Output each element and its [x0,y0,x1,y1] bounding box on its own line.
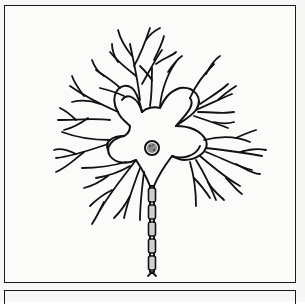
dendrites-right [190,130,266,206]
nucleus [145,141,159,155]
dendrites-upper-right [190,56,236,128]
myelin-sheath [149,188,156,270]
dendrites-lower-left [82,160,144,224]
axon [148,186,156,276]
